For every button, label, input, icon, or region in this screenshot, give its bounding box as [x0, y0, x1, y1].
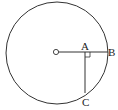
label-B: B — [108, 46, 115, 58]
label-C: C — [82, 96, 89, 108]
diagram-canvas: A B C — [0, 0, 118, 110]
right-angle-marker — [85, 52, 90, 57]
label-A: A — [81, 40, 89, 52]
center-point-O — [53, 49, 58, 54]
circle-geometry-figure: A B C — [0, 0, 118, 110]
